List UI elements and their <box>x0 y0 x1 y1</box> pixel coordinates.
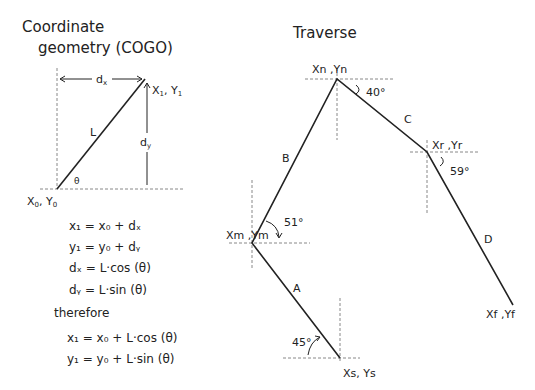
angle-label-n: 40° <box>366 86 386 99</box>
dx-label: dx <box>96 73 107 87</box>
angle-label-m: 51° <box>284 216 304 229</box>
point-label-s: Xs, Ys <box>343 367 376 380</box>
equation-y1: y₁ = y₀ + dᵧ <box>69 240 141 254</box>
dy-label: dy <box>140 136 151 150</box>
point-label-m: Xm ,Ym <box>226 229 269 242</box>
leg-B-label: B <box>282 152 290 165</box>
therefore-label: therefore <box>54 306 109 320</box>
equation-dx: dₓ = L·cos (θ) <box>69 261 151 275</box>
end-point-label: X1, Y1 <box>152 84 182 98</box>
angle-label-r: 59° <box>450 165 470 178</box>
cogo-title-line1: Coordinate <box>22 18 104 36</box>
cogo-title-line2: geometry (COGO) <box>38 39 173 57</box>
equation-dy: dᵧ = L·sin (θ) <box>69 283 147 297</box>
result-equation-x1: x₁ = x₀ + L·cos (θ) <box>67 331 177 345</box>
start-point-label: X0, Y0 <box>27 195 57 209</box>
point-label-f: Xf ,Yf <box>486 308 516 321</box>
cogo-line-L <box>57 79 145 189</box>
angle-arc-r <box>440 157 443 166</box>
dy-arrow <box>144 83 150 185</box>
diagram-canvas: Coordinate geometry (COGO) dx dy L θ X1,… <box>0 0 535 390</box>
angle-label-s: 45° <box>292 336 312 349</box>
leg-C-label: C <box>404 113 412 126</box>
point-label-n: Xn ,Yn <box>312 63 347 76</box>
equation-x1: x₁ = x₀ + dₓ <box>69 219 141 233</box>
traverse-title: Traverse <box>292 24 357 42</box>
leg-D-label: D <box>484 233 492 246</box>
result-equation-y1: y₁ = y₀ + L·sin (θ) <box>67 352 174 366</box>
point-label-r: Xr ,Yr <box>432 139 463 152</box>
L-label: L <box>90 126 97 139</box>
leg-A-label: A <box>293 282 301 295</box>
angle-arc-n <box>356 85 359 94</box>
theta-label: θ <box>74 176 80 186</box>
